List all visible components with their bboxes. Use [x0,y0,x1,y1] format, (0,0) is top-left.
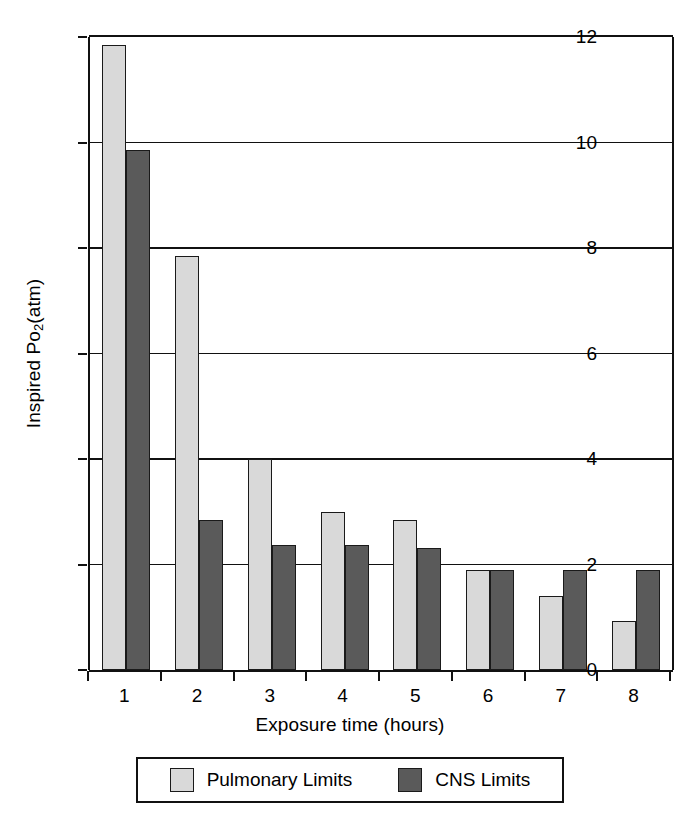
bar [563,570,587,670]
y-axis-tick-label: 10 [576,133,597,152]
y-axis-tick-label: 2 [586,555,597,574]
bar [102,45,126,670]
y-axis-title-subscript: 2 [31,324,46,331]
gridline [90,247,672,249]
legend-entry: CNS Limits [398,768,530,792]
y-axis-title-suffix: (atm) [23,279,45,324]
y-axis-tick-label: 8 [586,238,597,257]
x-axis-line [89,670,673,672]
bar [393,520,417,670]
legend-swatch [170,768,194,792]
bar [175,256,199,670]
y-axis-tick [78,353,87,355]
bar [126,150,150,670]
x-axis-tick [451,671,453,681]
y-axis-title: Inspired Po2 (atm) [14,37,54,670]
x-axis-tick-label: 1 [104,686,144,705]
bar [417,548,441,670]
bar [248,459,272,670]
x-axis-tick-label: 8 [614,686,654,705]
y-axis-tick [78,564,87,566]
x-axis-tick [233,671,235,681]
bar-chart-figure: Inspired Po2 (atm) 024681012 12345678 Ex… [0,0,700,814]
x-axis-tick [87,671,89,681]
x-axis-tick [305,671,307,681]
x-axis-tick [160,671,162,681]
x-axis-tick-label: 5 [395,686,435,705]
bar [636,570,660,670]
x-axis-tick-label: 2 [177,686,217,705]
x-axis-tick [378,671,380,681]
legend-label: Pulmonary Limits [207,769,353,791]
legend-swatch [398,768,422,792]
bar [199,520,223,670]
bar [321,512,345,670]
bar [466,570,490,670]
x-axis-tick-label: 4 [323,686,363,705]
bar [345,545,369,670]
x-axis-tick-label: 6 [468,686,508,705]
x-axis-tick-label: 7 [541,686,581,705]
y-axis-tick [78,247,87,249]
y-axis-tick [78,669,87,671]
legend-entry: Pulmonary Limits [170,768,353,792]
y-axis-tick-label: 12 [576,27,597,46]
x-axis-tick [524,671,526,681]
bar [272,545,296,670]
chart-legend: Pulmonary LimitsCNS Limits [136,757,564,803]
y-axis-tick [78,458,87,460]
x-axis-tick [596,671,598,681]
x-axis-title: Exposure time (hours) [0,714,700,736]
y-axis-tick-label: 4 [586,449,597,468]
y-axis-tick [78,142,87,144]
bar [490,570,514,670]
y-axis-title-prefix: Inspired Po [23,331,45,428]
y-axis-tick-label: 6 [586,344,597,363]
legend-label: CNS Limits [435,769,530,791]
y-axis-tick [78,36,87,38]
x-axis-tick [669,671,671,681]
bar [612,621,636,670]
x-axis-tick-label: 3 [250,686,290,705]
bar [539,596,563,670]
